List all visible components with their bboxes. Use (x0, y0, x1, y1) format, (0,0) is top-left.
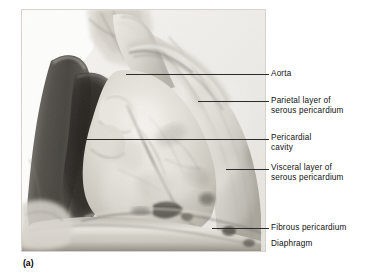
label-parietal-layer-of-serous-pericardium: Parietal layer of serous pericardium (271, 96, 344, 115)
leader-line-aorta (126, 74, 269, 75)
leader-line-fibrous-pericardium (212, 228, 269, 229)
leader-line-parietal-layer (198, 101, 269, 102)
label-visceral-layer-of-serous-pericardium: Visceral layer of serous pericardium (271, 163, 344, 182)
label-pericardial-cavity: Pericardial cavity (271, 133, 311, 152)
leader-line-visceral-layer (226, 169, 269, 170)
label-fibrous-pericardium: Fibrous pericardium (271, 223, 346, 233)
label-diaphragm: Diaphragm (271, 239, 313, 249)
leader-line-pericardial-cavity (77, 139, 269, 140)
anatomical-photograph (21, 9, 266, 252)
figure-root: Aorta Parietal layer of serous pericardi… (0, 0, 385, 278)
heart-pericardium-photo (21, 9, 266, 252)
label-aorta: Aorta (271, 69, 291, 79)
panel-letter: (a) (23, 258, 34, 268)
